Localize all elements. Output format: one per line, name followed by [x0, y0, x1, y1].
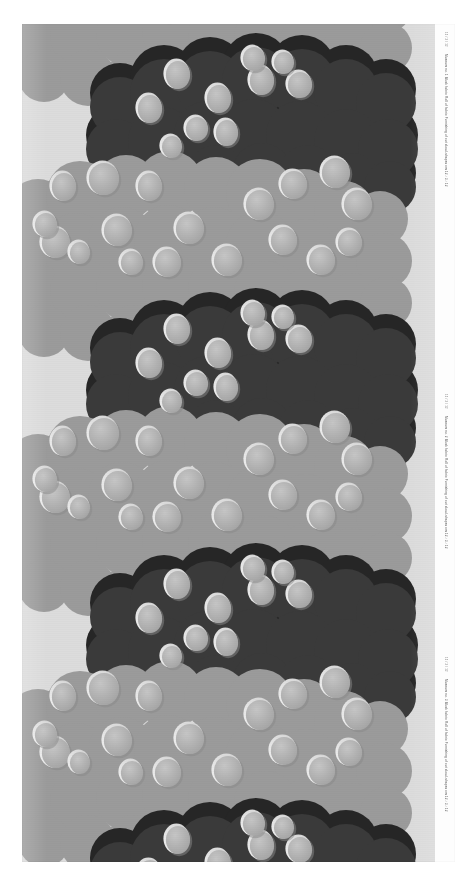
pattern-dot — [246, 190, 274, 220]
pattern-dot — [281, 426, 307, 454]
pattern-dot — [271, 227, 297, 255]
pattern-dot — [138, 683, 162, 711]
pattern-dot — [138, 428, 162, 456]
pattern-dot — [89, 418, 119, 450]
pattern-dot — [35, 213, 57, 237]
pattern-dot — [246, 445, 274, 475]
pattern-dot — [322, 668, 350, 698]
pattern-dot — [52, 173, 76, 201]
pattern-dot — [138, 350, 162, 378]
pattern-dot — [166, 571, 190, 599]
pattern-dot — [70, 752, 90, 774]
pattern-dot — [243, 47, 265, 71]
pattern-dot — [89, 673, 119, 705]
pattern-dot — [121, 761, 143, 785]
caption-code-2: 12 / 3 / 12 — [444, 394, 447, 409]
pattern-dot — [162, 646, 182, 668]
pattern-svg — [22, 24, 435, 862]
pattern-dot — [155, 759, 181, 787]
pattern-dot — [322, 158, 350, 188]
pattern-dot — [214, 756, 242, 786]
pattern-dot — [89, 163, 119, 195]
pattern-dot — [70, 497, 90, 519]
pattern-dot — [288, 327, 312, 353]
textile-artwork — [22, 24, 435, 862]
pattern-dot — [309, 247, 335, 275]
pattern-dot — [186, 372, 208, 396]
pattern-dot — [344, 445, 372, 475]
pattern-dot — [52, 683, 76, 711]
artwork-plate: Museum no. 1 Block fabric Roll of fabric… — [22, 24, 455, 862]
pattern-dot — [155, 504, 181, 532]
pattern-dot — [35, 468, 57, 492]
pattern-dot — [243, 812, 265, 836]
pattern-dot — [338, 740, 362, 766]
pattern-dot — [338, 230, 362, 256]
pattern-dot — [216, 120, 238, 146]
pattern-dot — [176, 469, 204, 499]
pattern-dot — [274, 52, 294, 74]
pattern-dot — [104, 471, 132, 501]
pattern-dot — [214, 501, 242, 531]
scan-page: Museum no. 1 Block fabric Roll of fabric… — [0, 0, 475, 885]
pattern-dot — [121, 506, 143, 530]
pattern-dot — [271, 482, 297, 510]
pattern-dot — [309, 757, 335, 785]
caption-line-2: Museum no. 2 Block fabric Roll of fabric… — [443, 416, 446, 549]
pattern-dot — [216, 630, 238, 656]
pattern-dot — [186, 627, 208, 651]
pattern-dot — [246, 700, 274, 730]
pattern-dot — [344, 190, 372, 220]
pattern-dot — [338, 485, 362, 511]
pattern-dot — [288, 582, 312, 608]
pattern-dot — [138, 95, 162, 123]
caption-code-3: 12 / 3 / 12 — [444, 657, 447, 672]
pattern-dot — [70, 242, 90, 264]
pattern-dot — [271, 737, 297, 765]
pattern-dot — [52, 428, 76, 456]
pattern-dot — [155, 249, 181, 277]
pattern-dot — [322, 413, 350, 443]
pattern-dot — [166, 316, 190, 344]
caption-strip: Museum no. 1 Block fabric Roll of fabric… — [435, 24, 455, 862]
pattern-dot — [207, 595, 231, 623]
pattern-dot — [288, 837, 312, 862]
pattern-dot — [207, 340, 231, 368]
pattern-dot — [243, 302, 265, 326]
pattern-dot — [121, 251, 143, 275]
pattern-dot — [186, 117, 208, 141]
pattern-dot — [104, 726, 132, 756]
pattern-dot — [288, 72, 312, 98]
pattern-dot — [166, 61, 190, 89]
pattern-dot — [35, 723, 57, 747]
caption-line-3: Museum no. 3 Block fabric Roll of fabric… — [443, 679, 446, 812]
pattern-dot — [166, 826, 190, 854]
pattern-dot — [162, 391, 182, 413]
pattern-dot — [207, 85, 231, 113]
pattern-dot — [176, 214, 204, 244]
pattern-dot — [104, 216, 132, 246]
pattern-dot — [274, 817, 294, 839]
caption-line-1: Museum no. 1 Block fabric Roll of fabric… — [443, 54, 446, 187]
pattern-dot — [216, 375, 238, 401]
pattern-dot — [138, 605, 162, 633]
pattern-dot — [309, 502, 335, 530]
pattern-dot — [243, 557, 265, 581]
pattern-dot — [344, 700, 372, 730]
pattern-dot — [281, 681, 307, 709]
pattern-dot — [176, 724, 204, 754]
pattern-dot — [138, 173, 162, 201]
pattern-dot — [274, 307, 294, 329]
pattern-dot — [162, 136, 182, 158]
caption-code-1: 12 / 3 / 12 — [444, 32, 447, 47]
pattern-dot — [274, 562, 294, 584]
pattern-dot — [281, 171, 307, 199]
pattern-dot — [214, 246, 242, 276]
